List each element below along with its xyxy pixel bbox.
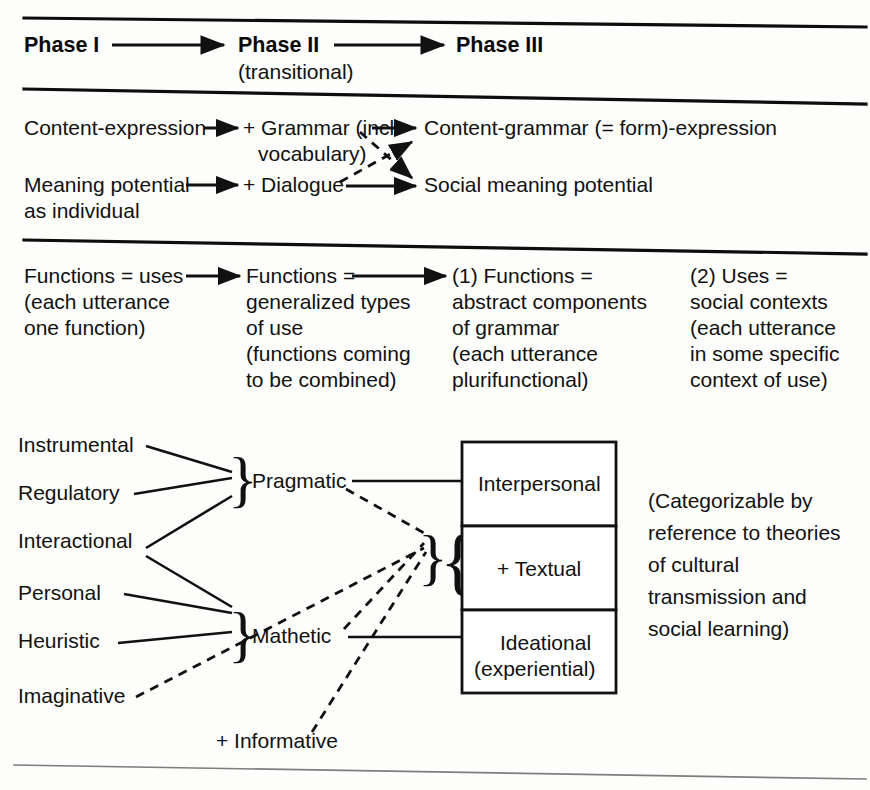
functions-col4-line1: (2) Uses = — [690, 264, 787, 287]
functions-col1-line3: one function) — [24, 316, 145, 339]
metafunction-ideational-label: Ideational — [500, 631, 591, 654]
note-line4: transmission and — [648, 585, 807, 608]
functions-col3-line1: (1) Functions = — [452, 264, 593, 287]
phase-2-sublabel: (transitional) — [238, 60, 354, 83]
microfunction-interactional: Interactional — [18, 529, 132, 552]
note-line2: reference to theories — [648, 521, 841, 544]
microfunction-instrumental: Instrumental — [18, 433, 134, 456]
functions-col1-line2: (each utterance — [24, 290, 170, 313]
figure-page: Phase I Phase II (transitional) Phase II… — [0, 0, 870, 790]
functions-col4-line3: (each utterance — [690, 316, 836, 339]
informative-label: + Informative — [216, 729, 338, 752]
functions-col2-line2: generalized types — [246, 290, 411, 313]
connector-heuristic-to-mathetic — [118, 632, 232, 643]
grammar-label-line2: vocabulary) — [258, 142, 367, 165]
macrofunction-mathetic: Mathetic — [252, 624, 331, 647]
social-meaning-potential-label: Social meaning potential — [424, 173, 653, 196]
phase-development-diagram: Phase I Phase II (transitional) Phase II… — [0, 0, 870, 790]
functions-col4-line4: in some specific — [690, 342, 839, 365]
microfunction-personal: Personal — [18, 581, 101, 604]
microfunction-imaginative: Imaginative — [18, 684, 125, 707]
rule-top — [24, 18, 866, 27]
connector-interactional-to-pragmatic — [146, 496, 232, 548]
functions-col2-line3: of use — [246, 316, 303, 339]
rule-after-section2 — [24, 240, 866, 254]
meaning-potential-line2: as individual — [24, 199, 140, 222]
phase-1-label: Phase I — [24, 33, 99, 57]
note-line1: (Categorizable by — [648, 489, 813, 512]
dialogue-label: + Dialogue — [243, 173, 344, 196]
functions-col2-line5: to be combined) — [246, 368, 397, 391]
phase-3-label: Phase III — [456, 33, 543, 57]
macrofunction-pragmatic: Pragmatic — [252, 469, 347, 492]
functions-col2-line4: (functions coming — [246, 342, 411, 365]
microfunction-heuristic: Heuristic — [18, 629, 100, 652]
note-line3: of cultural — [648, 553, 739, 576]
connector-regulatory-to-pragmatic — [134, 478, 232, 494]
note-line5: social learning) — [648, 617, 789, 640]
rule-after-phases — [24, 89, 866, 104]
functions-col4-line2: social contexts — [690, 290, 828, 313]
functions-col4-line5: context of use) — [690, 368, 828, 391]
microfunction-regulatory: Regulatory — [18, 481, 120, 504]
meaning-potential-line1: Meaning potential — [24, 173, 190, 196]
functions-col1-line1: Functions = uses — [24, 264, 183, 287]
functions-col2-line1: Functions = — [246, 264, 355, 287]
dashed-connector-pragmatic-to-textual — [346, 489, 424, 533]
functions-col3-line3: of grammar — [452, 316, 559, 339]
metafunction-textual-label: + Textual — [497, 557, 581, 580]
functions-col3-line5: plurifunctional) — [452, 368, 589, 391]
functions-col3-line4: (each utterance — [452, 342, 598, 365]
rule-bottom — [14, 765, 866, 779]
phase-2-label: Phase II — [238, 33, 319, 57]
functions-col3-line2: abstract components — [452, 290, 647, 313]
metafunction-experiential-label: (experiential) — [474, 657, 595, 680]
metafunction-interpersonal-label: Interpersonal — [478, 472, 601, 495]
connector-instrumental-to-pragmatic — [146, 446, 232, 472]
content-expression-label: Content-expression — [24, 116, 206, 139]
content-grammar-expression-label: Content-grammar (= form)-expression — [424, 116, 777, 139]
